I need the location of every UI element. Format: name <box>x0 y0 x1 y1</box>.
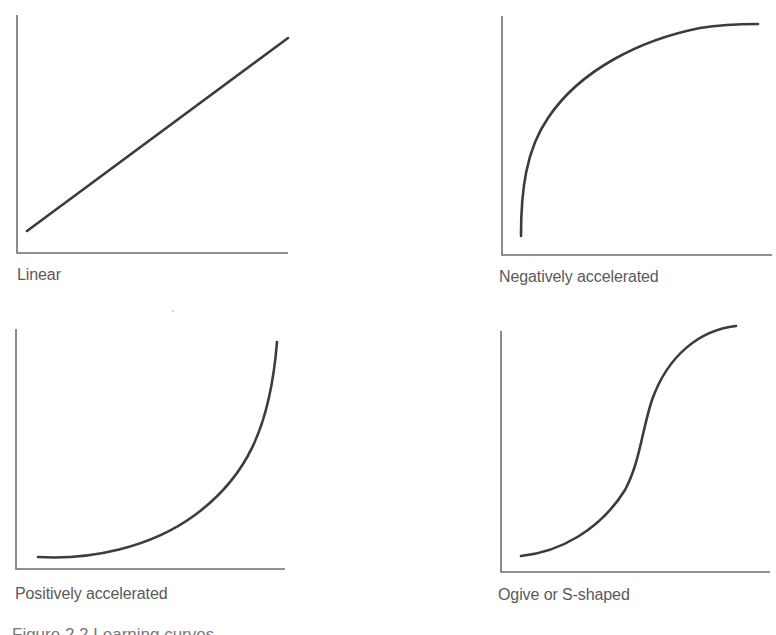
linear-axes <box>17 15 288 253</box>
panel-ogive <box>501 326 770 572</box>
linear-curve <box>27 38 288 231</box>
ogive-curve <box>521 326 736 556</box>
ogive-axes <box>501 331 770 572</box>
label-linear: Linear <box>17 266 61 284</box>
positive-curve <box>38 342 277 557</box>
learning-curves-figure <box>0 0 776 635</box>
panel-negatively-accelerated <box>502 16 772 255</box>
speck <box>172 310 174 312</box>
panel-positively-accelerated <box>16 310 285 569</box>
label-positively-accelerated: Positively accelerated <box>15 585 168 603</box>
negative-axes <box>502 16 772 255</box>
figure-caption-clipped: Figure 2.2 Learning curves <box>12 621 214 635</box>
label-ogive: Ogive or S-shaped <box>498 586 630 604</box>
negative-curve <box>521 24 758 236</box>
panel-linear <box>17 15 288 253</box>
positive-axes <box>16 329 285 569</box>
label-negatively-accelerated: Negatively accelerated <box>499 268 659 286</box>
